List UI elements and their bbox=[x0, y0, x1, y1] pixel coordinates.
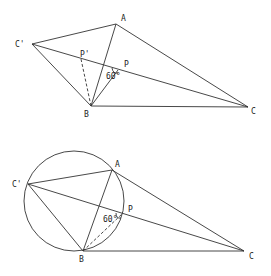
label-b: B bbox=[79, 255, 84, 264]
segment-cp-c bbox=[32, 44, 248, 107]
geometry-diagram: A B C C' P P' 60° A B C C' P 60° bbox=[0, 0, 271, 276]
label-a: A bbox=[115, 160, 120, 169]
label-c: C bbox=[251, 107, 256, 116]
angle-60-label: 60° bbox=[103, 215, 117, 224]
label-p: P bbox=[128, 205, 133, 214]
label-c-prime: C' bbox=[12, 180, 22, 189]
angle-60-label: 60° bbox=[106, 72, 120, 81]
segment-cp-a bbox=[28, 170, 112, 184]
bottom-figure: A B C C' P 60° bbox=[12, 151, 254, 264]
circumcircle bbox=[24, 151, 124, 251]
segment-cp-a bbox=[32, 24, 116, 44]
segment-b-pp-dashed bbox=[81, 59, 91, 106]
segment-a-b bbox=[83, 170, 112, 251]
label-b: B bbox=[84, 110, 89, 119]
top-figure: A B C C' P P' 60° bbox=[15, 14, 256, 119]
label-p-prime: P' bbox=[80, 50, 90, 59]
segment-cp-c bbox=[28, 184, 244, 251]
label-c: C bbox=[249, 252, 254, 261]
segment-b-c bbox=[91, 106, 248, 107]
label-a: A bbox=[121, 14, 126, 23]
segment-cp-b bbox=[28, 184, 83, 251]
label-p: P bbox=[124, 60, 129, 69]
label-c-prime: C' bbox=[15, 40, 25, 49]
segment-a-c bbox=[116, 24, 248, 107]
